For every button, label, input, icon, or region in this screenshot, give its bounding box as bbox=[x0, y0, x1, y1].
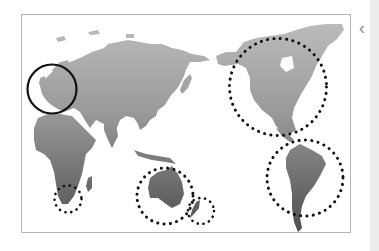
arctic-islands-landmass bbox=[56, 30, 134, 42]
india-landmass bbox=[104, 122, 118, 148]
south-america-landmass bbox=[286, 144, 326, 232]
landmasses bbox=[34, 24, 344, 232]
world-map bbox=[0, 0, 379, 251]
madagascar-landmass bbox=[86, 176, 92, 192]
sidebar-strip bbox=[370, 0, 379, 251]
north-america-landmass bbox=[216, 24, 344, 134]
indonesia-landmass bbox=[134, 150, 176, 164]
africa-landmass bbox=[34, 114, 96, 204]
chevron-left-icon[interactable]: ‹ bbox=[356, 18, 368, 38]
